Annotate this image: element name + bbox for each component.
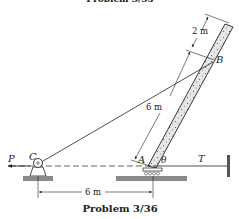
- dim-label-6m-horizontal: 6 m: [85, 187, 101, 197]
- label-t: T: [198, 153, 206, 164]
- label-theta: θ: [161, 155, 167, 165]
- rope-cb: [38, 62, 213, 164]
- label-c: C: [29, 151, 37, 162]
- figure-caption: Problem 3/36: [82, 203, 157, 214]
- top-caption-cropped: Problem 3/35: [86, 0, 154, 4]
- label-p: P: [7, 153, 15, 164]
- dim-label-6m-beam: 6 m: [146, 102, 162, 112]
- label-b: B: [215, 54, 223, 65]
- beam-dimension: [131, 14, 229, 166]
- dim-label-2m: 2 m: [192, 26, 208, 36]
- wall: [227, 155, 230, 177]
- label-a: A: [137, 154, 145, 165]
- roller-support-a: [116, 168, 187, 181]
- statics-diagram: Problem 3/35 2 m 6 m: [0, 0, 239, 219]
- beam: [148, 24, 233, 168]
